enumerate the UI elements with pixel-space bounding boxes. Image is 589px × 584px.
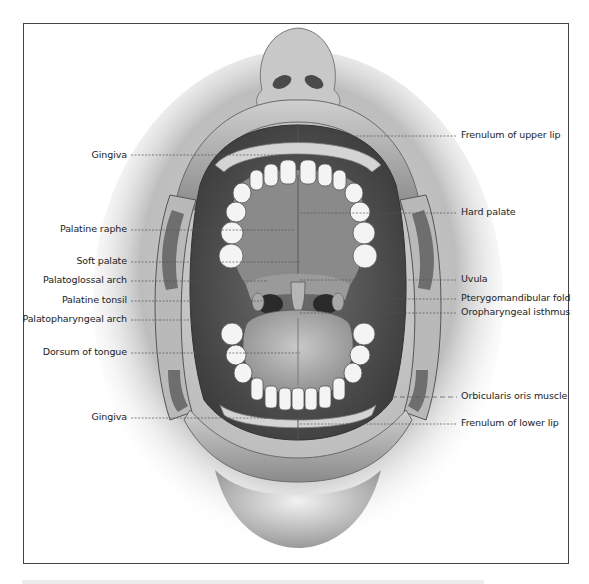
palatine-tonsil-left: [252, 293, 264, 311]
label-palatine-raphe: Palatine raphe: [60, 223, 127, 235]
label-oropharyngeal-isthmus: Oropharyngeal isthmus: [461, 306, 570, 318]
bottom-strip: [22, 580, 484, 584]
label-gingiva-lower: Gingiva: [92, 411, 127, 423]
label-dorsum-of-tongue: Dorsum of tongue: [43, 346, 127, 358]
label-palatopharyngeal-arch: Palatopharyngeal arch: [22, 313, 127, 325]
label-frenulum-upper-lip: Frenulum of upper lip: [461, 129, 561, 141]
label-gingiva-upper: Gingiva: [92, 149, 127, 161]
label-uvula: Uvula: [461, 273, 488, 285]
label-frenulum-lower-lip: Frenulum of lower lip: [461, 417, 559, 429]
label-palatoglossal-arch: Palatoglossal arch: [43, 274, 127, 286]
hard-palate: [230, 170, 366, 285]
label-soft-palate: Soft palate: [76, 255, 127, 267]
soft-palate-region: [246, 274, 350, 314]
label-orbicularis-oris-muscle: Orbicularis oris muscle: [461, 390, 567, 402]
nose: [257, 28, 340, 112]
label-hard-palate: Hard palate: [461, 206, 516, 218]
palatine-tonsil-right: [332, 293, 344, 311]
label-pterygomandibular-fold: Pterygomandibular fold: [461, 292, 571, 304]
label-palatine-tonsil: Palatine tonsil: [62, 294, 127, 306]
